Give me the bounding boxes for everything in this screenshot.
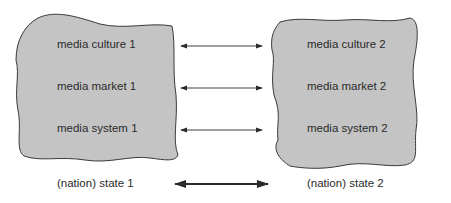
left-system-label: media system 1 xyxy=(57,122,138,134)
right-culture-label: media culture 2 xyxy=(307,38,386,50)
diagram-canvas xyxy=(0,0,451,203)
right-state-label: (nation) state 2 xyxy=(307,177,384,189)
left-market-label: media market 1 xyxy=(57,80,136,92)
left-state-label: (nation) state 1 xyxy=(57,177,134,189)
right-system-label: media system 2 xyxy=(307,122,388,134)
left-culture-label: media culture 1 xyxy=(57,38,136,50)
right-market-label: media market 2 xyxy=(307,80,386,92)
